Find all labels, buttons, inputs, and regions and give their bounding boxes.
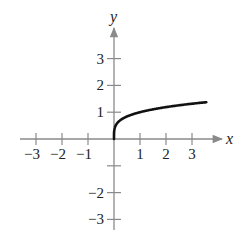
x-tick-label: 2 — [162, 146, 170, 162]
x-tick-label: −2 — [50, 146, 66, 162]
x-tick-label: 3 — [188, 146, 196, 162]
y-axis-label: y — [108, 8, 118, 26]
y-tick-label: −2 — [88, 185, 104, 201]
x-tick-label: −1 — [76, 146, 92, 162]
x-tick-label: 1 — [136, 146, 144, 162]
y-tick-label: 1 — [97, 104, 105, 120]
x-axis-label: x — [225, 130, 233, 147]
y-tick-label: 3 — [97, 51, 105, 67]
y-tick-label: 2 — [97, 77, 105, 93]
x-tick-label: −3 — [24, 146, 40, 162]
y-tick-label: −3 — [88, 211, 104, 227]
function-graph: −3−2−1123−3−2123 x y — [0, 0, 241, 244]
